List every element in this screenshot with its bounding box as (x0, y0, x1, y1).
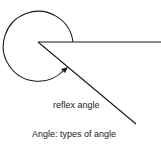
reflex-angle-figure (0, 0, 161, 144)
caption: Angle: types of angle (32, 129, 116, 139)
diagonal-ray (38, 42, 136, 124)
angle-label: reflex angle (53, 100, 100, 110)
reflex-arc (3, 11, 73, 81)
diagram: reflex angle Angle: types of angle (0, 0, 161, 144)
